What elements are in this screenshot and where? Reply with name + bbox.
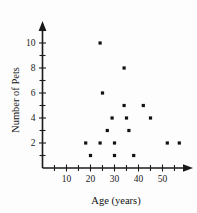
data-point <box>113 154 116 157</box>
y-axis-tick-labels: 246810 <box>26 38 36 148</box>
y-axis-tick-label: 10 <box>26 38 36 48</box>
data-point <box>89 154 92 157</box>
data-point <box>101 91 104 94</box>
data-point <box>84 141 87 144</box>
axes <box>39 21 193 172</box>
scatter-plot-figure: 1020304050 246810 Age (years) Number of … <box>0 0 197 213</box>
data-point <box>123 104 126 107</box>
y-axis-tick-label: 4 <box>31 113 36 123</box>
x-axis-title: Age (years) <box>91 195 141 207</box>
data-point <box>99 41 102 44</box>
x-axis-tick-labels: 1020304050 <box>62 174 168 184</box>
plot-canvas: 1020304050 246810 Age (years) Number of … <box>0 0 197 213</box>
x-axis-arrowhead <box>183 164 193 172</box>
data-point <box>127 129 130 132</box>
data-point <box>125 116 128 119</box>
data-point <box>111 116 114 119</box>
data-points <box>84 41 181 157</box>
y-axis-title: Number of Pets <box>10 67 21 133</box>
x-axis-tick-label: 10 <box>62 174 72 184</box>
x-axis-tick-label: 50 <box>158 174 168 184</box>
y-axis-arrowhead <box>39 21 47 31</box>
data-point <box>123 66 126 69</box>
data-point <box>149 116 152 119</box>
data-point <box>113 141 116 144</box>
data-point <box>142 104 145 107</box>
data-point <box>99 141 102 144</box>
y-axis-tick-label: 6 <box>31 88 36 98</box>
x-axis-tick-label: 30 <box>110 174 120 184</box>
data-point <box>106 129 109 132</box>
data-point <box>178 141 181 144</box>
x-axis-tick-label: 20 <box>86 174 96 184</box>
data-point <box>132 154 135 157</box>
y-axis-tick-label: 2 <box>31 138 36 148</box>
data-point <box>166 141 169 144</box>
y-axis-tick-label: 8 <box>31 63 36 73</box>
x-axis-tick-label: 40 <box>134 174 144 184</box>
